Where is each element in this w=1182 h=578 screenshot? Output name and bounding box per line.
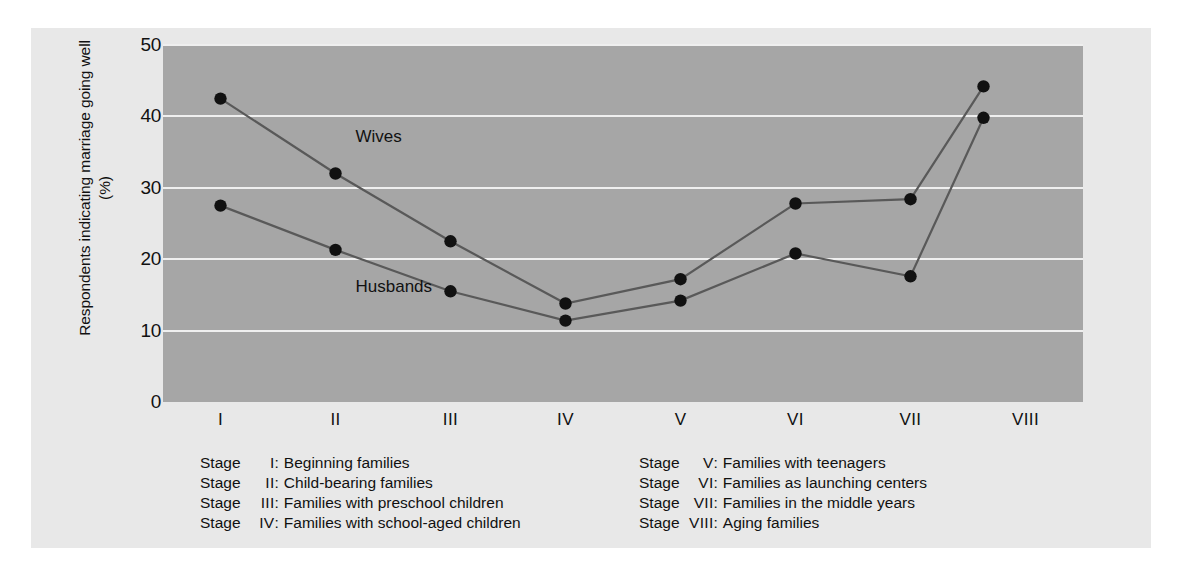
data-point-marker: [789, 247, 801, 259]
plot-area: Wives Husbands: [163, 45, 1083, 402]
legend-stage-word: Stage: [200, 493, 241, 513]
y-axis-tick-label: 20: [127, 248, 161, 270]
legend-stage-description: Families in the middle years: [723, 493, 915, 513]
data-point-marker: [214, 92, 226, 104]
data-point-marker: [674, 273, 686, 285]
legend-item: StageI:Beginning families: [200, 453, 521, 473]
data-point-marker: [977, 80, 989, 92]
legend-item: StageVI:Families as launching centers: [639, 473, 927, 493]
legend-stage-word: Stage: [200, 513, 241, 533]
legend: StageI:Beginning familiesStageII:Child-b…: [31, 453, 1151, 548]
legend-stage-word: Stage: [639, 493, 680, 513]
y-axis-tick-label: 10: [127, 320, 161, 342]
legend-stage-word: Stage: [200, 473, 241, 493]
data-point-marker: [559, 297, 571, 309]
legend-colon: :: [275, 493, 284, 513]
series-label-husbands: Husbands: [356, 277, 433, 297]
series-line-wives: [221, 86, 984, 303]
x-axis-tick-label: VIII: [1012, 410, 1039, 430]
data-point-marker: [559, 314, 571, 326]
legend-stage-numeral: V: [680, 453, 714, 473]
data-point-marker: [329, 167, 341, 179]
legend-item: StageV:Families with teenagers: [639, 453, 927, 473]
legend-colon: :: [714, 453, 723, 473]
data-point-marker: [789, 197, 801, 209]
legend-stage-word: Stage: [639, 513, 680, 533]
legend-stage-description: Child-bearing families: [284, 473, 433, 493]
data-point-marker: [444, 235, 456, 247]
data-point-marker: [904, 193, 916, 205]
legend-stage-numeral: VII: [680, 493, 714, 513]
x-axis-tick-label: VII: [900, 410, 922, 430]
legend-item: StageVII:Families in the middle years: [639, 493, 927, 513]
legend-stage-description: Families with teenagers: [723, 453, 886, 473]
series-label-wives: Wives: [356, 127, 402, 147]
legend-stage-word: Stage: [200, 453, 241, 473]
legend-stage-description: Beginning families: [284, 453, 410, 473]
legend-stage-word: Stage: [639, 453, 680, 473]
legend-stage-numeral: VI: [680, 473, 714, 493]
legend-column-left: StageI:Beginning familiesStageII:Child-b…: [200, 453, 521, 533]
data-point-marker: [674, 294, 686, 306]
data-point-marker: [444, 285, 456, 297]
legend-stage-numeral: III: [241, 493, 275, 513]
legend-item: StageIV:Families with school-aged childr…: [200, 513, 521, 533]
y-axis-tick-label: 40: [127, 105, 161, 127]
series-canvas: [163, 45, 1083, 402]
legend-item: StageVIII:Aging families: [639, 513, 927, 533]
figure-panel: Respondents indicating marriage going we…: [31, 28, 1151, 548]
x-axis-tick-label: III: [443, 410, 458, 430]
legend-colon: :: [714, 513, 723, 533]
legend-stage-description: Families with preschool children: [284, 493, 504, 513]
legend-stage-numeral: IV: [241, 513, 275, 533]
y-axis-tick-label: 30: [127, 177, 161, 199]
x-axis-tick-label: VI: [787, 410, 804, 430]
legend-colon: :: [714, 493, 723, 513]
y-axis-tick-label: 50: [127, 34, 161, 56]
data-point-marker: [977, 112, 989, 124]
data-point-marker: [904, 270, 916, 282]
series-line-husbands: [221, 118, 984, 321]
data-point-marker: [329, 244, 341, 256]
x-axis-tick-label: IV: [557, 410, 574, 430]
y-axis-tick-label: 0: [127, 391, 161, 413]
y-axis-title: Respondents indicating marriage going we…: [75, 28, 135, 348]
legend-colon: :: [275, 453, 284, 473]
legend-stage-description: Families as launching centers: [723, 473, 927, 493]
legend-colon: :: [275, 473, 284, 493]
legend-colon: :: [275, 513, 284, 533]
legend-item: StageIII:Families with preschool childre…: [200, 493, 521, 513]
legend-stage-description: Families with school-aged children: [284, 513, 521, 533]
legend-stage-word: Stage: [639, 473, 680, 493]
x-axis-tick-label: I: [218, 410, 223, 430]
legend-item: StageII:Child-bearing families: [200, 473, 521, 493]
data-point-marker: [214, 199, 226, 211]
x-axis-tick-label: V: [675, 410, 687, 430]
legend-stage-description: Aging families: [723, 513, 820, 533]
legend-stage-numeral: VIII: [680, 513, 714, 533]
legend-stage-numeral: I: [241, 453, 275, 473]
x-axis-tick-label: II: [330, 410, 340, 430]
legend-stage-numeral: II: [241, 473, 275, 493]
x-axis-tick-group: IIIIIIIVVVIVIIVIII: [163, 410, 1083, 440]
legend-column-right: StageV:Families with teenagersStageVI:Fa…: [639, 453, 927, 533]
legend-colon: :: [714, 473, 723, 493]
